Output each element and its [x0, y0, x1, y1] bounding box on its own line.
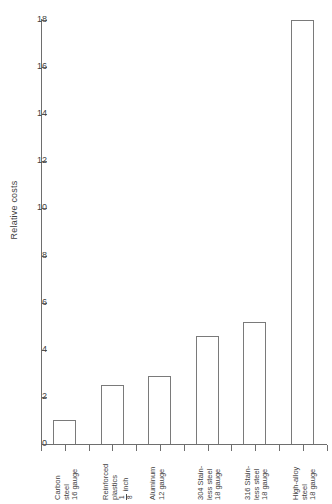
category-label-line: 18 gauge [309, 467, 318, 500]
bar [148, 376, 171, 444]
x-tick-mark [208, 445, 209, 451]
y-axis-title: Relative costs [9, 165, 19, 255]
x-tick-mark [255, 445, 256, 451]
x-tick-mark [112, 445, 113, 451]
category-label-line: 12 gauge [158, 467, 167, 500]
category-label-line: Reinforced [102, 464, 111, 500]
category-label: High-alloysteel18 gauge [292, 452, 325, 502]
bar [196, 336, 219, 444]
category-label-line: 18 gauge [214, 466, 223, 500]
bar [243, 322, 266, 444]
category-label-line: 16 gauge [71, 469, 80, 500]
category-label: Carbonsteel16 gauge [54, 452, 85, 502]
y-tick-label: 16 [21, 62, 47, 71]
y-tick-label: 14 [21, 109, 47, 118]
category-label: 304 Stain-less steel18 gauge [197, 452, 231, 502]
y-tick-label: 4 [21, 345, 47, 354]
x-tick-mark [41, 445, 42, 451]
x-tick-mark [303, 445, 304, 451]
y-axis-line [41, 19, 42, 445]
x-tick-mark [160, 445, 161, 451]
category-label-line: 18 gauge [262, 466, 271, 500]
bar [291, 20, 314, 444]
x-tick-mark [231, 445, 232, 451]
x-tick-mark [136, 445, 137, 451]
y-tick-label: 8 [21, 251, 47, 260]
category-label: Aluminum12 gauge [149, 452, 182, 502]
x-tick-mark [89, 445, 90, 451]
x-tick-mark [184, 445, 185, 451]
x-tick-mark [279, 445, 280, 451]
y-tick-label: 10 [21, 203, 47, 212]
bar [101, 385, 124, 444]
y-tick-label: 12 [21, 156, 47, 165]
y-tick-label: 2 [21, 392, 47, 401]
x-tick-mark [327, 445, 328, 451]
x-tick-mark [65, 445, 66, 451]
y-tick-label: 6 [21, 298, 47, 307]
category-label-fraction: 18 inch [119, 464, 133, 500]
bar-chart: Relative costs 024681012141618 Carbonste… [0, 0, 332, 504]
y-tick-label: 0 [21, 439, 47, 448]
category-label: 316 Stain-less steel18 gauge [244, 452, 278, 502]
category-label: Reinforcedplastics18 inch [102, 452, 138, 502]
bar [53, 420, 76, 444]
y-tick-label: 18 [21, 15, 47, 24]
